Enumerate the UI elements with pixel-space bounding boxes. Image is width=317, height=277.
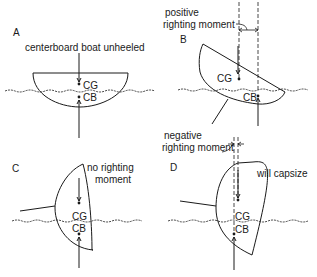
panel-a-caption: centerboard boat unheeled [25,42,145,53]
panel-d-note: will capsize [257,168,308,179]
waterline-a [5,90,155,92]
cg-label-c: CG [72,211,87,222]
cb-label-c: CB [72,223,86,234]
cg-label-a: CG [83,80,98,91]
panel-letter-a: A [13,27,20,38]
cg-point-c [78,202,81,205]
panel-letter-c: C [12,163,19,174]
cg-point-a [78,83,81,86]
cg-label-d: CG [235,211,250,222]
cb-label-a: CB [83,92,97,103]
panel-c-caption-line2: moment [95,174,131,185]
cg-point-d [237,199,240,202]
centerboard-d [180,201,216,206]
cb-label-d: CB [235,224,249,235]
panel-d-caption-line1: negative [164,130,202,141]
hull-c [55,164,93,250]
panel-b-caption-line2: righting moment [163,19,235,30]
cb-point-a [78,96,81,99]
panel-b-caption-line1: positive [165,7,199,18]
panel-d [168,137,308,270]
centerboard-b [212,99,228,124]
cg-point-b [238,78,241,81]
panel-letter-d: D [170,162,177,173]
panel-c-caption-line1: no righting [87,162,134,173]
cg-label-b: CG [217,73,232,84]
panel-d-caption-line2: righting moment [162,142,234,153]
panel-letter-b: B [180,34,187,45]
waterline-b [178,89,308,91]
cb-label-b: CB [243,92,257,103]
panel-a [5,53,155,138]
centerboard-c [20,206,55,211]
